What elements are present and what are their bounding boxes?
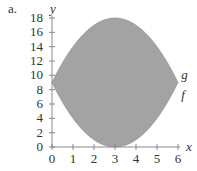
y-tick-label: 6 — [37, 96, 44, 111]
x-tick-label: 0 — [49, 151, 56, 166]
curve-label-f: f — [181, 87, 187, 102]
region-between-f-and-g — [52, 18, 178, 147]
x-axis-label: x — [185, 139, 192, 154]
y-tick-label: 10 — [30, 67, 43, 82]
chart: 0123456024681012141618xygfa. — [0, 0, 197, 171]
y-tick-label: 14 — [30, 39, 44, 54]
x-tick-label: 1 — [70, 151, 77, 166]
y-axis-label: y — [48, 1, 56, 16]
x-tick-label: 2 — [91, 151, 98, 166]
curve-label-g: g — [181, 67, 188, 82]
x-tick-label: 5 — [154, 151, 161, 166]
y-tick-label: 12 — [30, 53, 43, 68]
x-tick-label: 6 — [175, 151, 182, 166]
y-tick-label: 8 — [37, 82, 44, 97]
y-tick-label: 18 — [30, 10, 43, 25]
shaded-region — [52, 18, 178, 147]
y-tick-label: 2 — [37, 125, 44, 140]
x-tick-label: 4 — [133, 151, 140, 166]
panel-label: a. — [8, 1, 17, 16]
y-tick-label: 16 — [30, 24, 44, 39]
y-tick-label: 4 — [37, 110, 44, 125]
x-tick-label: 3 — [112, 151, 119, 166]
y-tick-label: 0 — [37, 139, 44, 154]
